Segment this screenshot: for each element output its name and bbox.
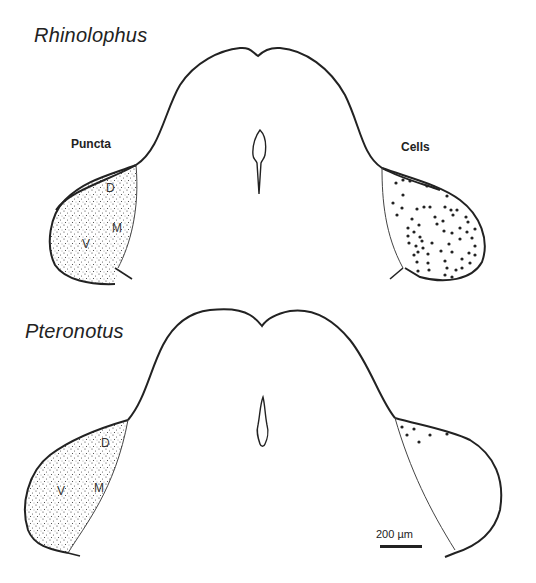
species-label-rhinolophus: Rhinolophus [34, 24, 147, 47]
brainstem-section-figure: Rhinolophus Puncta Cells D M V Pteronotu… [0, 0, 536, 583]
cells-label: Cells [401, 140, 430, 154]
rhinolophus-central-canal [253, 130, 266, 194]
rhinolophus-panel [50, 48, 485, 284]
puncta-label: Puncta [71, 137, 111, 151]
rhinolophus-left-nucleus [50, 165, 137, 284]
region-medial-rhinolophus: M [112, 221, 122, 235]
region-dorsal-rhinolophus: D [106, 181, 115, 195]
pteronotus-panel [25, 309, 501, 557]
region-ventral-rhinolophus: V [82, 237, 90, 251]
pteronotus-cell-dots [400, 425, 448, 443]
region-medial-pteronotus: M [94, 481, 104, 495]
scale-bar-label: 200 µm [376, 528, 413, 540]
scale-bar [380, 545, 422, 548]
species-label-pteronotus: Pteronotus [25, 320, 124, 343]
outline-drawing [0, 0, 536, 583]
pteronotus-central-canal [257, 397, 268, 446]
rhinolophus-cell-dots [391, 178, 476, 278]
region-ventral-pteronotus: V [57, 484, 65, 498]
region-dorsal-pteronotus: D [101, 436, 110, 450]
